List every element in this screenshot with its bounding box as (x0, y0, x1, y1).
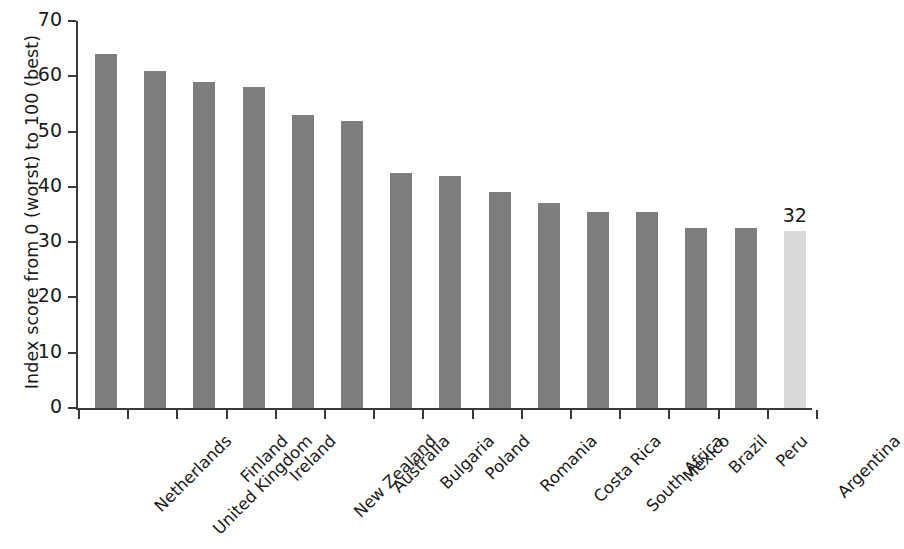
y-axis-line (76, 21, 78, 410)
y-axis-tick-label: 60 (38, 63, 62, 85)
bar (95, 54, 117, 408)
x-axis-tick (668, 410, 670, 419)
x-axis-category-label: Romania (537, 432, 601, 496)
bar (193, 82, 215, 408)
x-axis-tick (422, 410, 424, 419)
y-axis-tick: 50 (68, 131, 76, 133)
x-axis-tick (324, 410, 326, 419)
y-axis-tick-label: 30 (38, 229, 62, 251)
x-axis-tick (226, 410, 228, 419)
x-axis-tick (619, 410, 621, 419)
y-axis-tick: 10 (68, 352, 76, 354)
bar (341, 121, 363, 408)
x-axis-tick (521, 410, 523, 419)
bar (144, 71, 166, 408)
y-axis-tick-label: 70 (38, 8, 62, 30)
x-axis-tick (373, 410, 375, 419)
y-axis-tick-label: 0 (50, 395, 62, 417)
x-axis-tick (816, 410, 818, 419)
plot-area: 010203040506070 32 (76, 21, 812, 410)
x-axis-tick (78, 410, 80, 419)
x-axis-category-label: Brazil (726, 432, 771, 477)
x-axis-tick (176, 410, 178, 419)
x-axis-category-label: Argentina (834, 432, 904, 502)
bar (784, 231, 806, 408)
x-axis-category-label: Netherlands (151, 432, 235, 516)
y-axis-tick: 20 (68, 296, 76, 298)
y-axis-tick: 0 (68, 407, 76, 409)
y-axis-tick: 30 (68, 241, 76, 243)
y-axis-tick-label: 50 (38, 119, 62, 141)
bar (439, 176, 461, 408)
bar (685, 228, 707, 408)
x-axis-tick (570, 410, 572, 419)
y-axis-tick: 40 (68, 186, 76, 188)
y-axis-tick: 70 (68, 20, 76, 22)
x-axis-tick (275, 410, 277, 419)
bar (243, 87, 265, 408)
x-axis-line (76, 408, 812, 410)
bar (735, 228, 757, 408)
bar-value-label: 32 (775, 205, 815, 225)
y-axis-tick-label: 40 (38, 174, 62, 196)
bar (489, 192, 511, 408)
bar (292, 115, 314, 408)
x-axis-tick (767, 410, 769, 419)
x-axis-category-label: Peru (772, 432, 811, 471)
bar (636, 212, 658, 408)
x-axis-tick (472, 410, 474, 419)
y-axis-tick: 60 (68, 75, 76, 77)
x-axis-tick (127, 410, 129, 419)
bar (538, 203, 560, 408)
bar (390, 173, 412, 408)
y-axis-tick-label: 10 (38, 340, 62, 362)
x-axis-tick (718, 410, 720, 419)
bar (587, 212, 609, 408)
y-axis-tick-label: 20 (38, 284, 62, 306)
